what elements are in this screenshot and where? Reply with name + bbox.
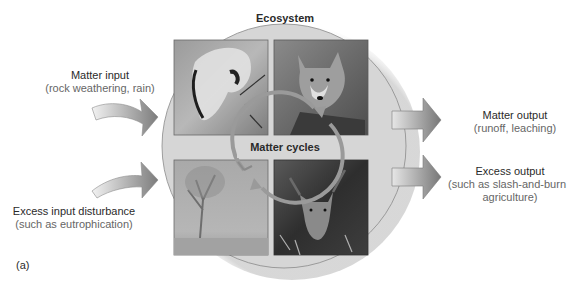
excess-input-label: Excess input disturbance (such as eutrop…: [0, 205, 148, 231]
excess-output-detail-line2: agriculture): [448, 191, 572, 204]
photo-forest: [174, 160, 268, 255]
matter-input-title: Matter input: [30, 69, 170, 82]
matter-input-label: Matter input (rock weathering, rain): [30, 69, 170, 95]
excess-input-arrow: [92, 162, 158, 198]
excess-output-label: Excess output (such as slash-and-burn ag…: [448, 165, 573, 204]
panel-label: (a): [16, 259, 29, 272]
excess-output-detail: (such as slash-and-burn: [448, 178, 573, 191]
matter-input-detail: (rock weathering, rain): [30, 82, 170, 95]
photo-wolf: [274, 40, 368, 135]
excess-input-detail: (such as eutrophication): [0, 218, 148, 231]
matter-input-arrow: [92, 99, 158, 136]
excess-input-title: Excess input disturbance: [0, 205, 148, 218]
matter-cycles-label: Matter cycles: [236, 141, 334, 154]
excess-output-title: Excess output: [448, 165, 572, 178]
photo-skull: [174, 40, 268, 135]
matter-output-label: Matter output (runoff, leaching): [460, 109, 570, 135]
ecosystem-title: Ecosystem: [245, 12, 325, 25]
matter-output-title: Matter output: [460, 109, 570, 122]
photo-deer: [274, 160, 368, 255]
matter-output-detail: (runoff, leaching): [460, 122, 570, 135]
